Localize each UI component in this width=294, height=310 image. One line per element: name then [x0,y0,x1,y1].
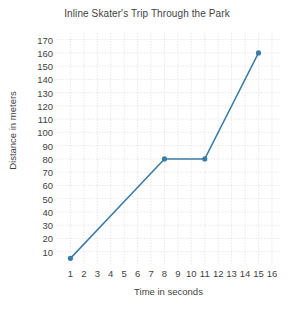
plot-area [57,33,280,265]
line-chart: Inline Skater's Trip Through the Park 10… [0,0,294,310]
data-series [57,33,280,265]
x-tick-label: 15 [253,268,264,279]
y-axis-title: Distance in meters [7,71,18,191]
x-tick-label: 3 [95,268,100,279]
x-tick-label: 14 [240,268,251,279]
x-tick-label: 5 [122,268,127,279]
x-tick-label: 9 [175,268,180,279]
y-tick-label: 160 [0,47,53,58]
y-tick-label: 10 [0,246,53,257]
x-axis-title: Time in seconds [57,286,280,297]
x-tick-label: 8 [162,268,167,279]
x-tick-label: 7 [148,268,153,279]
x-tick-label: 13 [226,268,237,279]
x-tick-label: 6 [135,268,140,279]
chart-title: Inline Skater's Trip Through the Park [0,8,294,19]
data-point-marker [256,50,261,55]
y-tick-label: 50 [0,193,53,204]
x-tick-label: 4 [108,268,113,279]
y-tick-label: 30 [0,220,53,231]
y-tick-label: 170 [0,34,53,45]
x-tick-label: 16 [267,268,278,279]
series-line [70,53,258,258]
data-point-marker [202,156,207,161]
x-tick-label: 12 [213,268,224,279]
x-tick-label: 2 [81,268,86,279]
y-tick-label: 40 [0,206,53,217]
x-tick-label: 11 [200,268,210,279]
x-tick-label: 10 [186,268,197,279]
x-tick-label: 1 [68,268,73,279]
data-point-marker [68,256,73,261]
y-tick-label: 20 [0,233,53,244]
x-axis-tick-labels: 12345678910111213141516 [57,268,280,282]
data-point-marker [162,156,167,161]
